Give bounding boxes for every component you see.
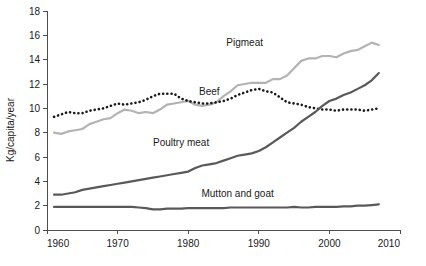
- x-tick-label: 1970: [106, 238, 129, 249]
- x-tick-label: 2010: [378, 238, 401, 249]
- y-tick-label: 2: [34, 200, 40, 211]
- meat-consumption-chart: 024681012141618 Kg/capita/year 196019701…: [0, 0, 426, 266]
- y-tick-label: 6: [34, 152, 40, 163]
- series-label-mutton-and-goat: Mutton and goat: [201, 188, 273, 199]
- series-label-pigmeat: Pigmeat: [226, 37, 263, 48]
- series-label-poultry-meat: Poultry meat: [153, 137, 209, 148]
- series-line-mutton-and-goat: [54, 204, 379, 209]
- y-tick-label: 18: [29, 6, 41, 17]
- y-tick-label: 8: [34, 127, 40, 138]
- x-tick-label: 2000: [318, 238, 341, 249]
- y-axis-group: 024681012141618 Kg/capita/year: [5, 6, 47, 236]
- y-tick-label: 16: [29, 30, 41, 41]
- series-layer: [54, 43, 379, 210]
- y-tick-label: 14: [29, 54, 41, 65]
- y-tick-label: 4: [34, 176, 40, 187]
- y-axis-ticks: 024681012141618: [29, 6, 47, 236]
- x-tick-label: 1960: [47, 238, 70, 249]
- chart-canvas: 024681012141618 Kg/capita/year 196019701…: [0, 0, 426, 266]
- x-axis-ticks: 196019701980199020002010: [47, 230, 400, 249]
- y-tick-label: 12: [29, 79, 41, 90]
- x-tick-label: 1990: [248, 238, 271, 249]
- y-tick-label: 10: [29, 103, 41, 114]
- x-axis-group: 196019701980199020002010: [47, 230, 400, 249]
- y-axis-title: Kg/capita/year: [5, 97, 16, 162]
- y-tick-label: 0: [34, 225, 40, 236]
- series-label-beef: Beef: [199, 86, 220, 97]
- x-tick-label: 1980: [177, 238, 200, 249]
